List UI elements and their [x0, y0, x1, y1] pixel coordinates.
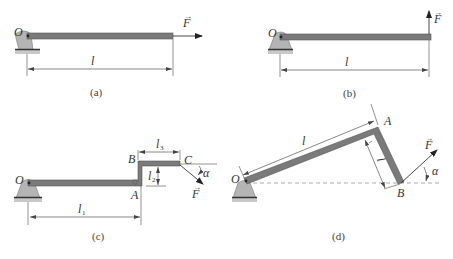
vector-arrow-icon: →: [193, 183, 201, 192]
label-alpha: α: [432, 164, 439, 178]
pivot-pin: [28, 182, 31, 185]
label-B: B: [397, 186, 405, 200]
vector-arrow-icon: →: [434, 8, 442, 17]
stepped-bar: [28, 161, 180, 186]
label-C: C: [184, 153, 193, 167]
label-l: l: [345, 55, 349, 69]
angle-arc: [198, 166, 201, 175]
bar: [27, 33, 173, 39]
label-alpha: α: [203, 166, 210, 180]
angle-arc: [424, 167, 427, 181]
caption-d: (d): [332, 230, 345, 243]
label-O: O: [14, 25, 23, 39]
figure-a: O F → l (a): [14, 12, 202, 99]
label-B: B: [128, 152, 136, 166]
label-O: O: [268, 26, 277, 40]
force-arrow: [180, 165, 203, 184]
figure-c: O A B C l 1 l 3 l 2 F → α (c): [14, 137, 217, 243]
label-A: A: [383, 114, 392, 128]
diagram-canvas: O F → l (a) O F → l (b): [0, 0, 453, 259]
label-l: l: [91, 54, 95, 68]
pivot-pin: [27, 35, 30, 38]
figure-b: O F → l (b): [268, 8, 442, 100]
vector-arrow-icon: →: [184, 12, 192, 21]
label-O: O: [231, 172, 240, 186]
label-l3-subscript: 3: [160, 144, 164, 152]
label-l2-subscript: 2: [152, 176, 156, 184]
caption-a: (a): [90, 86, 103, 99]
figure-d: O A B l l F → α (d): [231, 104, 440, 243]
caption-b: (b): [343, 87, 356, 100]
dimension-l: [243, 121, 374, 175]
label-A: A: [130, 188, 139, 202]
caption-c: (c): [92, 230, 105, 243]
vector-arrow-icon: →: [425, 134, 433, 143]
bar: [280, 34, 431, 40]
pivot-pin: [280, 36, 283, 39]
label-l: l: [302, 134, 306, 148]
pivot-pin: [245, 180, 248, 183]
label-O: O: [15, 173, 24, 187]
label-l1-subscript: 1: [82, 209, 86, 217]
